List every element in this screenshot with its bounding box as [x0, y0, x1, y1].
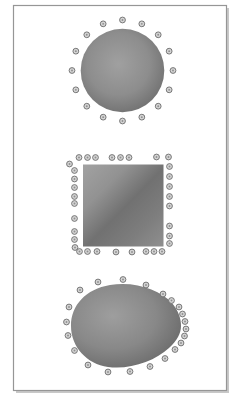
cube-dot-core: [74, 178, 76, 180]
egg-dot-core: [171, 300, 173, 302]
cube-dot-core: [74, 196, 76, 198]
egg-dot-core: [164, 358, 166, 360]
egg-dot-core: [68, 306, 70, 308]
egg-dot-core: [149, 366, 151, 368]
cube-dot-core: [120, 157, 122, 159]
cube-dot-core: [115, 251, 117, 253]
egg-dot-core: [180, 342, 182, 344]
cube-dot-core: [128, 157, 130, 159]
cube-dot-core: [169, 205, 171, 207]
cube-dot-core: [153, 251, 155, 253]
egg-dot-core: [145, 284, 147, 286]
egg-dot-core: [184, 335, 186, 337]
sphere-dot-core: [141, 23, 143, 25]
sphere-shape: [81, 29, 165, 113]
cube-dot-core: [69, 163, 71, 165]
egg-dot-core: [178, 306, 180, 308]
cube-dot-core: [95, 157, 97, 159]
cube-dot-core: [74, 203, 76, 205]
egg-dot-core: [74, 350, 76, 352]
sphere-dot-core: [122, 19, 124, 21]
egg-dot-core: [67, 335, 69, 337]
cube-dot-core: [74, 187, 76, 189]
cube-dot-core: [87, 251, 89, 253]
egg-dot-core: [66, 321, 68, 323]
cube-dot-core: [168, 156, 170, 158]
sphere-dot-core: [141, 116, 143, 118]
sphere-dot-core: [75, 50, 77, 52]
cube-dot-core: [74, 170, 76, 172]
egg-dot-core: [87, 364, 89, 366]
cube-dot-core: [169, 176, 171, 178]
egg-dot-core: [182, 313, 184, 315]
egg-dot-core: [174, 349, 176, 351]
cube-dot-core: [169, 235, 171, 237]
cube-dot-core: [78, 157, 80, 159]
egg-dot-core: [184, 321, 186, 323]
egg-dot-core: [97, 281, 99, 283]
cube-dot-core: [131, 251, 133, 253]
cube-dot-core: [169, 243, 171, 245]
egg-dot-core: [122, 279, 124, 281]
cube-dot-core: [156, 156, 158, 158]
sphere-dot-core: [122, 120, 124, 122]
cube-dot-core: [169, 186, 171, 188]
sphere-dot-core: [172, 70, 174, 72]
egg-dot-core: [185, 328, 187, 330]
sphere-dot-core: [157, 34, 159, 36]
cube-dot-core: [145, 251, 147, 253]
sphere-dot-core: [168, 89, 170, 91]
cube-dot-core: [74, 231, 76, 233]
sphere-dot-core: [157, 105, 159, 107]
cube-dot-core: [169, 196, 171, 198]
cube-dot-core: [169, 166, 171, 168]
cube-shape: [83, 165, 164, 247]
cube-dot-core: [74, 218, 76, 220]
egg-dot-core: [79, 289, 81, 291]
cube-dot-core: [161, 251, 163, 253]
sphere-dot-core: [168, 50, 170, 52]
cube-dot-core: [79, 251, 81, 253]
egg-dot-core: [107, 371, 109, 373]
figure-canvas: [0, 0, 241, 403]
sphere-dot-core: [86, 105, 88, 107]
cube-dot-core: [74, 239, 76, 241]
cube-dot-core: [169, 225, 171, 227]
egg-dot-core: [162, 293, 164, 295]
cube-dot-core: [111, 157, 113, 159]
sphere-dot-core: [86, 34, 88, 36]
egg-dot-core: [129, 371, 131, 373]
sphere-dot-core: [102, 23, 104, 25]
cube-dot-core: [96, 251, 98, 253]
cube-dot-core: [87, 157, 89, 159]
cube-dot-core: [74, 247, 76, 249]
sphere-dot-core: [102, 116, 104, 118]
sphere-dot-core: [71, 70, 73, 72]
shapes-diagram: [0, 0, 241, 403]
sphere-dot-core: [75, 89, 77, 91]
